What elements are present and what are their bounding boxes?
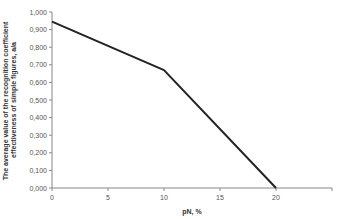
line-chart: 0,0000,1000,2000,3000,4000,5000,6000,700… [0,0,338,219]
x-axis: 05101520 [50,188,332,201]
x-axis-title: pN, % [182,208,202,216]
y-tick-label: 0,500 [29,97,47,104]
y-axis-title-line-2: effectiveness of simple figures, a/a [10,42,18,158]
y-tick-label: 0,200 [29,149,47,156]
y-tick-label: 0,800 [29,44,47,51]
series-line [52,22,276,188]
y-axis: 0,0000,1000,2000,3000,4000,5000,6000,700… [29,9,52,192]
x-tick-label: 15 [216,194,224,201]
x-tick-label: 0 [50,194,54,201]
y-tick-label: 0,000 [29,185,47,192]
y-axis-title-line-1: The average value of the recognition coe… [2,21,10,180]
y-tick-label: 0,600 [29,79,47,86]
y-tick-label: 1,000 [29,9,47,16]
y-tick-label: 0,900 [29,26,47,33]
y-tick-label: 0,700 [29,61,47,68]
x-tick-label: 20 [272,194,280,201]
x-tick-label: 5 [106,194,110,201]
y-tick-label: 0,100 [29,167,47,174]
y-axis-title: The average value of the recognition coe… [2,20,18,181]
data-series [52,22,276,188]
x-tick-label: 10 [160,194,168,201]
y-tick-label: 0,300 [29,132,47,139]
y-tick-label: 0,400 [29,114,47,121]
